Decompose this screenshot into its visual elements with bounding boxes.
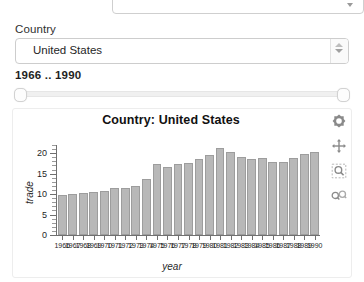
bar[interactable] xyxy=(184,163,193,235)
bar[interactable] xyxy=(68,194,77,235)
plot-modebar[interactable] xyxy=(329,113,349,204)
y-tick xyxy=(50,194,56,195)
x-tick xyxy=(146,236,147,240)
bar[interactable] xyxy=(142,179,151,235)
x-tick xyxy=(294,236,295,240)
y-tick-label: 0 xyxy=(13,230,47,240)
x-tick xyxy=(231,236,232,240)
y-tick-minor xyxy=(52,149,56,150)
bar[interactable] xyxy=(100,191,109,235)
bar[interactable] xyxy=(268,162,277,235)
y-tick-minor xyxy=(52,206,56,207)
bar[interactable] xyxy=(131,186,140,235)
x-tick xyxy=(252,236,253,240)
y-tick-label: 5 xyxy=(13,210,47,220)
y-tick xyxy=(50,174,56,175)
y-tick-minor xyxy=(52,223,56,224)
x-tick xyxy=(136,236,137,240)
x-tick xyxy=(167,236,168,240)
bar-chart-plot[interactable]: trade year 05101520196619671968196919701… xyxy=(13,109,331,278)
bar[interactable] xyxy=(216,148,225,235)
zoom-box-icon[interactable] xyxy=(331,163,347,179)
y-tick-label: 15 xyxy=(13,169,47,179)
country-select[interactable]: United States xyxy=(15,38,349,64)
bar[interactable] xyxy=(121,188,130,235)
reset-axes-icon[interactable] xyxy=(331,113,347,129)
y-tick xyxy=(50,215,56,216)
bar[interactable] xyxy=(174,164,183,235)
y-tick-label: 10 xyxy=(13,189,47,199)
y-tick-minor xyxy=(52,227,56,228)
bar[interactable] xyxy=(310,152,319,235)
y-tick-minor xyxy=(52,210,56,211)
x-tick xyxy=(315,236,316,240)
bar[interactable] xyxy=(205,155,214,235)
year-range-slider[interactable] xyxy=(15,88,349,100)
country-select-value: United States xyxy=(33,44,102,56)
x-tick xyxy=(62,236,63,240)
y-tick-minor xyxy=(52,165,56,166)
bar[interactable] xyxy=(258,158,267,235)
x-tick xyxy=(304,236,305,240)
y-tick-minor xyxy=(52,157,56,158)
pan-icon[interactable] xyxy=(331,138,347,154)
x-tick xyxy=(189,236,190,240)
bar[interactable] xyxy=(163,167,172,235)
y-tick-minor xyxy=(52,170,56,171)
x-tick xyxy=(125,236,126,240)
x-tick xyxy=(210,236,211,240)
x-tick xyxy=(104,236,105,240)
y-tick xyxy=(50,235,56,236)
y-tick-minor xyxy=(52,231,56,232)
y-tick-label: 20 xyxy=(13,148,47,158)
bar[interactable] xyxy=(226,152,235,235)
y-tick-minor xyxy=(52,178,56,179)
y-tick-minor xyxy=(52,161,56,162)
cut-off-select[interactable] xyxy=(112,0,364,14)
country-trade-explorer: Country United States 1966 .. 1990 Count… xyxy=(0,0,364,282)
bar[interactable] xyxy=(237,157,246,235)
x-tick xyxy=(73,236,74,240)
bar[interactable] xyxy=(279,162,288,235)
y-tick-minor xyxy=(52,219,56,220)
x-tick xyxy=(273,236,274,240)
bar[interactable] xyxy=(110,188,119,235)
bar[interactable] xyxy=(247,159,256,235)
chart-card: Country: United States trade year 051015… xyxy=(12,108,352,278)
x-tick xyxy=(115,236,116,240)
x-tick xyxy=(262,236,263,240)
x-tick xyxy=(283,236,284,240)
zoom-in-out-icon[interactable] xyxy=(331,188,347,204)
bar[interactable] xyxy=(195,159,204,235)
chevron-updown-icon[interactable] xyxy=(330,39,348,63)
y-tick xyxy=(50,153,56,154)
x-tick xyxy=(94,236,95,240)
x-tick xyxy=(83,236,84,240)
bar[interactable] xyxy=(300,154,309,235)
country-label: Country xyxy=(15,23,56,35)
bar[interactable] xyxy=(89,192,98,235)
bar[interactable] xyxy=(58,195,67,235)
bar[interactable] xyxy=(153,164,162,235)
x-tick xyxy=(241,236,242,240)
slider-fill xyxy=(21,92,343,96)
y-tick-minor xyxy=(52,182,56,183)
x-tick xyxy=(157,236,158,240)
chevron-down-icon xyxy=(347,3,353,7)
range-handle-max[interactable] xyxy=(337,88,350,102)
year-range-readout: 1966 .. 1990 xyxy=(15,69,81,81)
bar[interactable] xyxy=(79,193,88,235)
bar[interactable] xyxy=(289,158,298,235)
y-tick-minor xyxy=(52,186,56,187)
x-tick xyxy=(199,236,200,240)
y-tick-minor xyxy=(52,190,56,191)
y-tick-minor xyxy=(52,202,56,203)
x-tick xyxy=(178,236,179,240)
range-handle-min[interactable] xyxy=(14,88,27,102)
x-axis-label: year xyxy=(13,261,331,272)
y-tick-minor xyxy=(52,145,56,146)
x-tick xyxy=(220,236,221,240)
x-tick-label: 1990 xyxy=(307,242,323,249)
y-tick-minor xyxy=(52,198,56,199)
